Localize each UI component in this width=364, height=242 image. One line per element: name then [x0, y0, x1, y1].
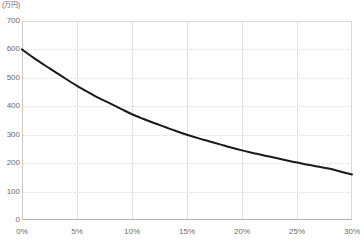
- y-axis-tick-label: 0: [0, 216, 20, 224]
- x-axis-tick-label: 30%: [332, 227, 364, 236]
- y-axis-tick-label: 100: [0, 188, 20, 196]
- x-axis-tick-label: 5%: [57, 227, 97, 236]
- plot-area: [22, 21, 352, 220]
- y-axis-tick-labels: 0100200300400500600700: [0, 0, 20, 242]
- series-line-chart: [22, 21, 352, 220]
- y-axis-tick-label: 500: [0, 74, 20, 82]
- y-axis-tick-label: 700: [0, 17, 20, 25]
- y-axis-tick-label: 200: [0, 159, 20, 167]
- chart-container: (万円) 0100200300400500600700 0%5%10%15%20…: [0, 0, 364, 242]
- x-axis-tick-label: 10%: [112, 227, 152, 236]
- x-axis-tick-label: 25%: [277, 227, 317, 236]
- x-axis-tick-label: 15%: [167, 227, 207, 236]
- y-axis-tick-label: 300: [0, 131, 20, 139]
- x-axis-tick-label: 0%: [2, 227, 42, 236]
- y-axis-tick-label: 400: [0, 102, 20, 110]
- series-line-path: [22, 49, 352, 174]
- y-axis-tick-label: 600: [0, 45, 20, 53]
- x-axis-tick-labels: 0%5%10%15%20%25%30%: [22, 227, 352, 239]
- x-axis-tick-label: 20%: [222, 227, 262, 236]
